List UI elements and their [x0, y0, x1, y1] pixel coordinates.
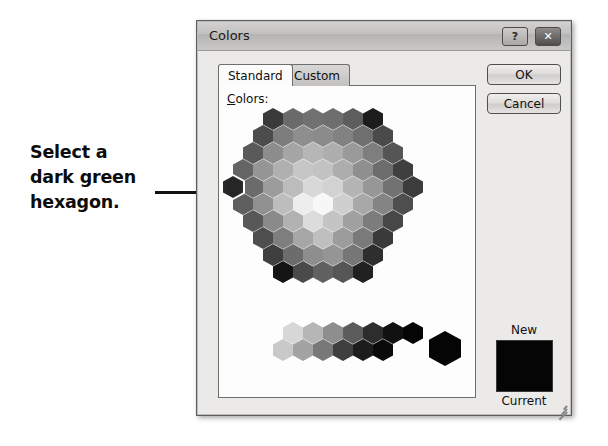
tab-standard[interactable]: Standard: [218, 64, 293, 86]
grayscale-swatch-strip[interactable]: [219, 322, 475, 362]
colors-label: Colors:: [227, 92, 269, 106]
new-color-label: New: [484, 323, 564, 337]
ok-button[interactable]: OK: [487, 64, 561, 85]
annotation-line-2: dark green: [30, 165, 190, 190]
dialog-body: Standard Custom Colors: OK Cancel New Cu…: [198, 51, 570, 414]
dialog-title: Colors: [209, 28, 250, 43]
cancel-button[interactable]: Cancel: [487, 93, 561, 114]
close-icon[interactable]: ✕: [535, 27, 561, 46]
instruction-annotation: Select a dark green hexagon.: [30, 140, 190, 215]
color-honeycomb-grid[interactable]: [219, 108, 475, 322]
colors-dialog: Colors ? ✕ Standard Custom Colors: OK Ca…: [196, 20, 572, 416]
colors-label-rest: olors:: [235, 92, 268, 106]
annotation-line-1: Select a: [30, 140, 190, 165]
grayscale-hexagon[interactable]: [403, 322, 423, 344]
color-preview: New Current: [484, 323, 564, 409]
help-icon[interactable]: ?: [502, 27, 528, 46]
current-color-label: Current: [484, 394, 564, 408]
selected-color-hexagon[interactable]: [429, 331, 461, 366]
color-preview-swatch: [496, 340, 553, 392]
dialog-titlebar[interactable]: Colors ? ✕: [198, 22, 570, 51]
resize-grip-icon[interactable]: [554, 399, 567, 412]
standard-tab-panel: Colors:: [218, 85, 476, 398]
tab-custom[interactable]: Custom: [284, 64, 350, 86]
